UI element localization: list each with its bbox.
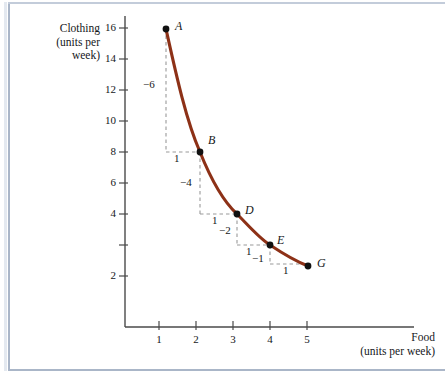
- point-label-g: G: [317, 256, 326, 270]
- data-point-e: [267, 242, 274, 249]
- step-dy-label-de: −2: [219, 224, 231, 237]
- y-tick-label-8: 8: [96, 145, 116, 158]
- step-dy-label-bd: −4: [180, 176, 192, 189]
- x-axis-title: Food (units per week): [310, 331, 435, 358]
- point-label-b: B: [208, 133, 215, 147]
- point-label-a: A: [175, 19, 182, 33]
- step-dy-label-ab: −6: [143, 78, 155, 91]
- data-point-a: [163, 26, 170, 33]
- data-points: [163, 26, 312, 270]
- y-tick-label-10: 10: [96, 114, 116, 127]
- step-dx-label-bd: 1: [212, 214, 218, 227]
- y-tick-label-2: 2: [96, 269, 116, 282]
- data-point-g: [305, 263, 312, 270]
- y-axis-ticks: [119, 28, 128, 276]
- y-tick-label-12: 12: [96, 83, 116, 96]
- y-tick-label-16: 16: [96, 21, 116, 34]
- step-dx-label-eg: 1: [283, 264, 289, 277]
- x-axis-title-line1: Food: [310, 331, 435, 345]
- step-dy-label-eg: −1: [252, 252, 264, 265]
- step-dx-label-de: 1: [246, 245, 252, 258]
- y-axis-title-line3: week): [26, 49, 100, 63]
- point-label-d: D: [245, 203, 254, 217]
- y-axis-title-line2: (units per: [26, 36, 100, 50]
- y-tick-label-4: 4: [96, 207, 116, 220]
- x-tick-label-3: 3: [224, 333, 242, 346]
- data-point-d: [234, 211, 241, 218]
- step-dashed-lines: [166, 29, 308, 264]
- x-tick-label-1: 1: [150, 333, 168, 346]
- x-tick-label-2: 2: [187, 333, 205, 346]
- x-axis-ticks: [159, 321, 307, 330]
- data-point-b: [197, 149, 204, 156]
- x-axis-title-line2: (units per week): [310, 345, 435, 359]
- y-axis-title: Clothing (units per week): [26, 22, 100, 63]
- step-dx-label-ab: 1: [174, 152, 180, 165]
- y-tick-label-6: 6: [96, 176, 116, 189]
- y-axis-title-line1: Clothing: [26, 22, 100, 36]
- indifference-curve-figure: Clothing (units per week) 16 14 12 10 8 …: [0, 0, 445, 373]
- point-label-e: E: [277, 233, 284, 247]
- x-tick-label-4: 4: [261, 333, 279, 346]
- y-tick-label-14: 14: [96, 52, 116, 65]
